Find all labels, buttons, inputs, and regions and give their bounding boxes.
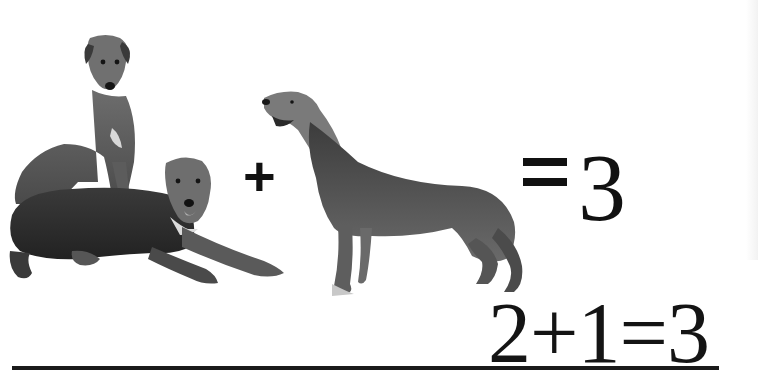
caption-equation: 2+1=3 xyxy=(488,290,709,376)
caption-underline xyxy=(12,366,719,370)
standing-wolfhound xyxy=(262,88,527,300)
edge-shadow xyxy=(746,0,758,260)
equals-sign xyxy=(523,158,567,186)
result-three: 3 xyxy=(578,140,626,236)
